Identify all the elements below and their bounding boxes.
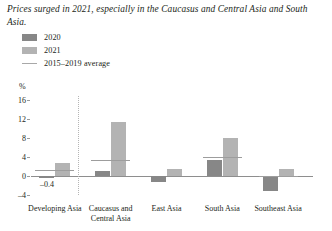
- y-axis-tick-mark: [27, 100, 30, 101]
- square-swatch-icon: [22, 47, 37, 54]
- chart-legend: 2020 2021 2015–2019 average: [22, 32, 110, 71]
- bar-2021: [279, 169, 294, 176]
- y-axis-tick-mark: [27, 195, 30, 196]
- bar-2020: [95, 171, 110, 176]
- legend-label: 2021: [44, 46, 61, 55]
- x-axis-category-label: South Asia: [191, 204, 253, 214]
- y-axis-tick-mark: [27, 138, 30, 139]
- y-axis-tick-label: 16: [4, 96, 26, 105]
- chart-title: Prices surged in 2021, especially in the…: [7, 3, 325, 28]
- average-marker-line: [35, 170, 74, 171]
- y-axis-tick-label: 4: [4, 153, 26, 162]
- chart-figure: Prices surged in 2021, especially in the…: [0, 0, 332, 231]
- x-axis-category-label: Caucasus and Central Asia: [80, 204, 142, 223]
- average-marker-line: [203, 157, 242, 158]
- plot-area: –40481216Developing AsiaCaucasus and Cen…: [31, 100, 310, 195]
- x-axis-category-label: Southeast Asia: [247, 204, 309, 214]
- line-swatch-icon: [22, 63, 37, 64]
- y-axis-tick-mark: [27, 119, 30, 120]
- average-marker-line: [259, 176, 298, 177]
- legend-label: 2020: [44, 33, 61, 42]
- y-axis-tick-label: 0: [4, 172, 26, 181]
- y-axis-tick-mark: [27, 176, 30, 177]
- x-axis-category-label: East Asia: [136, 204, 198, 214]
- legend-item-2020: 2020: [22, 32, 110, 44]
- bar-2020: [39, 176, 54, 178]
- bar-2021: [167, 169, 182, 176]
- bar-2020: [151, 176, 166, 182]
- y-axis-tick-label: 12: [4, 115, 26, 124]
- y-axis-tick-mark: [27, 157, 30, 158]
- square-swatch-icon: [22, 34, 37, 41]
- y-axis-unit-label: %: [19, 82, 26, 91]
- average-marker-line: [91, 160, 130, 161]
- legend-item-2021: 2021: [22, 45, 110, 57]
- bar-2021: [111, 122, 126, 176]
- data-value-label: –0.4: [40, 180, 54, 189]
- group-separator: [78, 96, 79, 195]
- y-axis-tick-label: 8: [4, 134, 26, 143]
- bar-2020: [207, 160, 222, 176]
- x-axis-category-label: Developing Asia: [24, 204, 86, 214]
- legend-item-average: 2015–2019 average: [22, 58, 110, 70]
- bar-2020: [263, 176, 278, 191]
- legend-label: 2015–2019 average: [44, 59, 110, 68]
- y-axis-tick-label: –4: [4, 191, 26, 200]
